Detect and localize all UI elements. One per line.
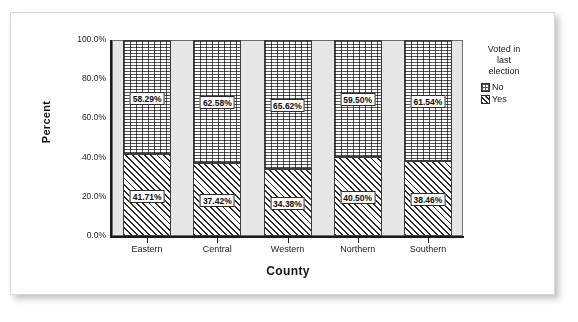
data-label-yes: 38.46% bbox=[410, 193, 445, 206]
bar-segment-yes[interactable]: 38.46% bbox=[404, 161, 452, 236]
x-category-label: Central bbox=[177, 244, 257, 254]
legend-items: No Yes bbox=[473, 82, 553, 104]
legend-label: Yes bbox=[492, 94, 507, 104]
bar-segment-yes[interactable]: 34.38% bbox=[264, 169, 312, 236]
data-label-yes: 41.71% bbox=[130, 190, 165, 203]
screenshot-root: Percent 100.0%80.0%60.0%40.0%20.0%0.0% 5… bbox=[0, 0, 578, 322]
x-tick-mark bbox=[428, 238, 429, 243]
data-label-no: 58.29% bbox=[130, 92, 165, 105]
y-tick-label: 0.0% bbox=[52, 230, 106, 240]
bar-northern[interactable]: 59.50%40.50% bbox=[334, 40, 382, 236]
bar-segment-yes[interactable]: 41.71% bbox=[123, 154, 171, 236]
bar-segment-no[interactable]: 65.62% bbox=[264, 40, 312, 169]
y-axis-ticks: 100.0%80.0%60.0%40.0%20.0%0.0% bbox=[50, 12, 106, 295]
dotted-swatch-icon bbox=[481, 83, 490, 92]
legend-title-line-3: election bbox=[473, 66, 535, 77]
x-category-label: Southern bbox=[388, 244, 468, 254]
legend-title-line-1: Voted in bbox=[473, 44, 535, 55]
bar-segment-yes[interactable]: 37.42% bbox=[193, 163, 241, 236]
x-category-label: Western bbox=[248, 244, 328, 254]
legend-item-yes[interactable]: Yes bbox=[481, 94, 553, 104]
y-axis-line bbox=[110, 40, 112, 238]
bar-western[interactable]: 65.62%34.38% bbox=[264, 40, 312, 236]
x-tick-mark bbox=[358, 238, 359, 243]
bar-eastern[interactable]: 58.29%41.71% bbox=[123, 40, 171, 236]
y-tick-label: 100.0% bbox=[52, 34, 106, 44]
legend: Voted in last election No Yes bbox=[473, 44, 553, 106]
y-tick-label: 80.0% bbox=[52, 73, 106, 83]
legend-label: No bbox=[492, 82, 504, 92]
data-label-no: 62.58% bbox=[200, 96, 235, 109]
x-category-label: Eastern bbox=[107, 244, 187, 254]
y-tick-label: 20.0% bbox=[52, 191, 106, 201]
x-category-label: Northern bbox=[318, 244, 398, 254]
bar-segment-no[interactable]: 58.29% bbox=[123, 40, 171, 154]
x-tick-mark bbox=[217, 238, 218, 243]
legend-item-no[interactable]: No bbox=[481, 82, 553, 92]
bar-segment-no[interactable]: 62.58% bbox=[193, 40, 241, 163]
data-label-no: 61.54% bbox=[410, 95, 445, 108]
data-label-yes: 34.38% bbox=[270, 197, 305, 210]
hatched-swatch-icon bbox=[481, 95, 490, 104]
x-axis-title: County bbox=[112, 264, 464, 278]
bar-segment-no[interactable]: 61.54% bbox=[404, 40, 452, 161]
bar-segment-no[interactable]: 59.50% bbox=[334, 40, 382, 157]
legend-title-line-2: last bbox=[473, 55, 535, 66]
data-label-no: 65.62% bbox=[270, 99, 305, 112]
x-tick-mark bbox=[288, 238, 289, 243]
x-tick-mark bbox=[147, 238, 148, 243]
y-tick-label: 40.0% bbox=[52, 152, 106, 162]
data-label-yes: 40.50% bbox=[340, 191, 375, 204]
y-tick-label: 60.0% bbox=[52, 112, 106, 122]
bar-central[interactable]: 62.58%37.42% bbox=[193, 40, 241, 236]
bar-segment-yes[interactable]: 40.50% bbox=[334, 157, 382, 236]
data-label-yes: 37.42% bbox=[200, 194, 235, 207]
legend-title: Voted in last election bbox=[473, 44, 535, 77]
bar-southern[interactable]: 61.54%38.46% bbox=[404, 40, 452, 236]
data-label-no: 59.50% bbox=[340, 93, 375, 106]
stacked-bar-chart: Percent 100.0%80.0%60.0%40.0%20.0%0.0% 5… bbox=[10, 12, 555, 295]
